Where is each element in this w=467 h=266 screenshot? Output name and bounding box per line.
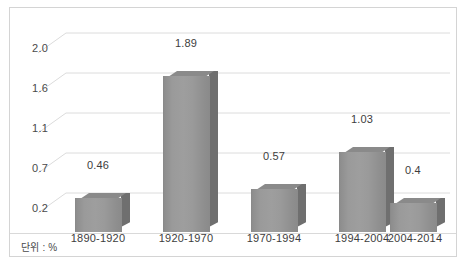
bar-column-1994-2004[interactable] bbox=[339, 152, 385, 232]
bar-front-face bbox=[390, 203, 437, 232]
bar-side-face bbox=[297, 184, 306, 227]
bar-front-face bbox=[251, 189, 298, 232]
plot-area: 2.0 1.6 1.1 0.7 0.2 0.46 1.89 bbox=[10, 8, 458, 232]
bar-value-label-1890-1920: 0.46 bbox=[70, 159, 126, 171]
bar-front-face bbox=[339, 152, 386, 232]
bar-side-face bbox=[209, 71, 218, 227]
footnote-bar: 단위 : % bbox=[10, 233, 456, 256]
footnote-unit-text: 단위 : % bbox=[21, 239, 57, 254]
bar-column-1920-1970[interactable] bbox=[163, 76, 209, 232]
bar-front-face bbox=[75, 198, 122, 232]
bar-value-label-1970-1994: 0.57 bbox=[246, 150, 302, 162]
bar-value-label-1994-2004: 1.03 bbox=[334, 113, 390, 125]
bar-column-1890-1920[interactable] bbox=[75, 198, 121, 232]
bar-value-label-2004-2014: 0.4 bbox=[385, 164, 441, 176]
bar-side-face bbox=[436, 198, 445, 227]
bars-layer: 0.46 1.89 0.57 1.03 bbox=[10, 8, 458, 232]
bar-column-2004-2014[interactable] bbox=[390, 203, 436, 232]
chart-frame: 2.0 1.6 1.1 0.7 0.2 0.46 1.89 bbox=[9, 7, 457, 257]
bar-side-face bbox=[121, 193, 130, 227]
bar-column-1970-1994[interactable] bbox=[251, 189, 297, 232]
bar-front-face bbox=[163, 76, 210, 232]
bar-value-label-1920-1970: 1.89 bbox=[158, 37, 214, 49]
